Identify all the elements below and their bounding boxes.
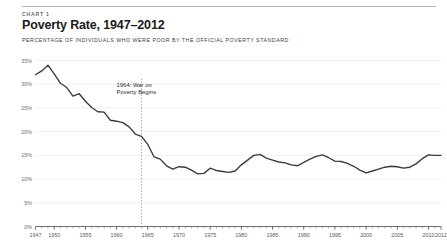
- chart-figure: CHART 1 Poverty Rate, 1947–2012 PERCENTA…: [0, 0, 447, 245]
- x-axis-tick-label: 1985: [267, 232, 279, 238]
- x-axis-tick-label: 1950: [48, 232, 60, 238]
- y-axis-tick-label: 20%: [21, 129, 32, 135]
- x-axis-tick-label: 1995: [329, 232, 341, 238]
- y-axis-tick-label: 10%: [21, 176, 32, 182]
- annotation-line-2: Poverty Begins: [117, 89, 157, 95]
- x-axis-tick-label: 1970: [173, 232, 185, 238]
- x-axis-tick-label: 1947: [30, 232, 42, 238]
- y-axis-labels: 0%5%10%15%20%25%30%35%: [21, 58, 32, 230]
- y-axis-tick-label: 15%: [21, 152, 32, 158]
- y-axis-tick-label: 30%: [21, 81, 32, 87]
- x-axis-tick-label: 2010: [423, 232, 435, 238]
- poverty-rate-series: [36, 65, 442, 174]
- x-axis-tick-label: 1965: [142, 232, 154, 238]
- y-axis-tick-label: 35%: [21, 58, 32, 64]
- x-axis-tick-label: 1960: [111, 232, 123, 238]
- x-axis-tick-label: 1955: [79, 232, 91, 238]
- line-chart-svg: 0%5%10%15%20%25%30%35% 19471950195519601…: [0, 0, 447, 245]
- x-axis-tick-label: 2012: [435, 232, 447, 238]
- y-axis-tick-label: 0%: [24, 224, 32, 230]
- x-axis-tick-label: 1975: [204, 232, 216, 238]
- series-line-poverty-rate: [36, 65, 442, 174]
- y-axis-tick-label: 5%: [24, 200, 32, 206]
- annotation-labels: 1964: War onPoverty Begins: [117, 82, 157, 96]
- x-axis-labels: 1947195019551960196519701975198019851990…: [30, 232, 447, 238]
- gridlines: [36, 61, 442, 203]
- x-axis-tick-label: 1990: [298, 232, 310, 238]
- x-axis-tick-label: 2005: [391, 232, 403, 238]
- x-axis: [36, 227, 442, 230]
- x-axis-tick-label: 2000: [360, 232, 372, 238]
- annotation-line-1: 1964: War on: [117, 82, 152, 88]
- y-axis-tick-label: 25%: [21, 105, 32, 111]
- plot-area: 0%5%10%15%20%25%30%35% 19471950195519601…: [0, 0, 447, 245]
- x-axis-tick-label: 1980: [235, 232, 247, 238]
